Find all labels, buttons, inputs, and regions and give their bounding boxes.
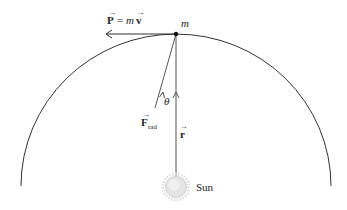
svg-text:→: →: [142, 110, 150, 119]
sun-icon: [163, 174, 189, 200]
theta-label: θ: [164, 95, 170, 107]
svg-text:m: m: [126, 14, 134, 26]
svg-text:→: →: [180, 122, 188, 131]
svg-text:→: →: [137, 8, 145, 17]
svg-text:=: =: [117, 14, 123, 26]
mass-point: [174, 32, 178, 36]
mass-label: m: [181, 17, 189, 29]
radius-label: r →: [180, 122, 188, 140]
momentum-label: P → = m v →: [107, 8, 145, 26]
orbit-diagram: P → = m v → m θ F → rad r → Sun: [0, 0, 347, 210]
svg-text:→: →: [108, 8, 116, 17]
sun-label: Sun: [196, 181, 214, 193]
force-label: F → rad: [141, 110, 157, 131]
svg-text:rad: rad: [148, 123, 157, 131]
